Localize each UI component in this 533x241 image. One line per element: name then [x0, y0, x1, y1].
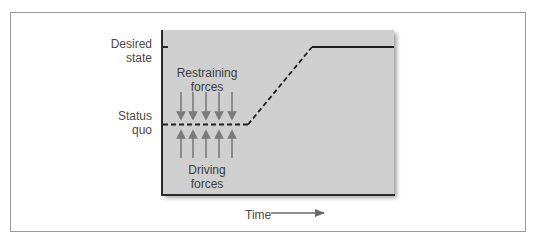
diagram-graphics: [0, 0, 533, 241]
driving-force-arrows: [181, 134, 232, 158]
restraining-force-arrows: [181, 92, 232, 116]
transition-dashed-line: [248, 47, 312, 125]
time-axis-label: Time: [245, 208, 271, 222]
